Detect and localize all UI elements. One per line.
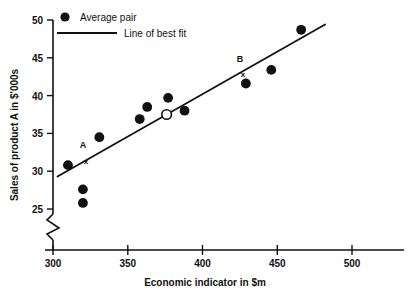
data-point-marker xyxy=(142,102,152,112)
data-point-marker xyxy=(241,79,251,89)
x-tick-label-500: 500 xyxy=(344,258,361,269)
x-tick-label-450: 450 xyxy=(269,258,286,269)
x-axis-title: Economic indicator in $m xyxy=(144,277,266,288)
y-tick-label-40: 40 xyxy=(32,91,44,102)
legend-label-average-pair: Average pair xyxy=(80,12,137,23)
x-axis xyxy=(45,245,404,255)
plot-layer: xAxB xyxy=(57,25,325,208)
data-point-marker xyxy=(135,114,145,124)
y-axis-tick-labels: 50 45 40 35 30 25 xyxy=(32,15,44,215)
data-point-marker xyxy=(94,132,104,142)
chart-canvas: 50 45 40 35 30 25 Sales of product A in … xyxy=(0,0,410,292)
data-point-marker xyxy=(180,106,190,116)
legend-label-line-of-best-fit: Line of best fit xyxy=(124,28,186,39)
line-of-best-fit xyxy=(57,25,325,177)
data-point-marker xyxy=(78,184,88,194)
x-axis-tick-labels: 300 350 400 450 500 xyxy=(45,258,361,269)
y-axis xyxy=(47,20,59,250)
scatter-chart: 50 45 40 35 30 25 Sales of product A in … xyxy=(0,0,410,292)
data-point-marker xyxy=(78,198,88,208)
annotation-x-marker-b: x xyxy=(241,70,246,79)
data-point-marker xyxy=(163,93,173,103)
annotation-x-marker-a: x xyxy=(84,157,89,166)
x-tick-label-400: 400 xyxy=(194,258,211,269)
legend-marker-average-pair-icon xyxy=(60,12,69,21)
x-tick-label-300: 300 xyxy=(45,258,62,269)
mean-point-marker xyxy=(162,110,172,120)
annotation-label-a: A xyxy=(80,140,87,150)
y-axis-break-symbol xyxy=(47,214,59,240)
y-tick-label-25: 25 xyxy=(32,204,44,215)
y-tick-label-45: 45 xyxy=(32,53,44,64)
x-tick-label-350: 350 xyxy=(119,258,136,269)
data-point-marker xyxy=(266,65,276,75)
y-tick-label-50: 50 xyxy=(32,15,44,26)
data-point-marker xyxy=(296,25,306,35)
annotation-label-b: B xyxy=(237,54,244,64)
y-axis-ticks xyxy=(47,20,53,209)
y-axis-title: Sales of product A in $'000s xyxy=(9,68,20,201)
y-tick-label-30: 30 xyxy=(32,166,44,177)
data-point-marker xyxy=(63,160,73,170)
legend: Average pair Line of best fit xyxy=(57,12,186,39)
y-tick-label-35: 35 xyxy=(32,128,44,139)
